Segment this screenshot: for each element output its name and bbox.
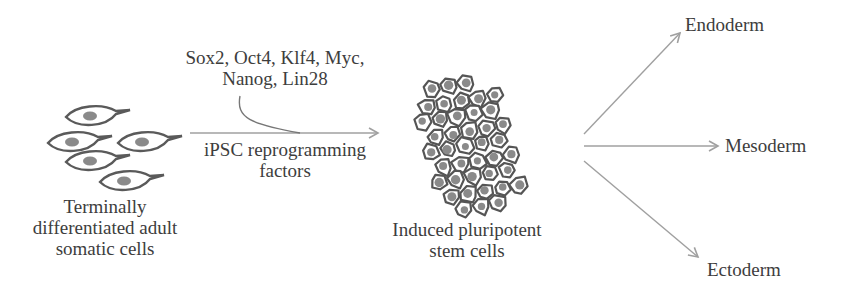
label-line: Induced pluripotent [372, 219, 562, 240]
stem-cell [489, 195, 506, 211]
nucleus [465, 127, 474, 136]
nucleus [451, 175, 460, 184]
nucleus [449, 131, 457, 139]
stem-cell [499, 163, 515, 177]
nucleus [440, 100, 448, 108]
nucleus [478, 203, 485, 210]
endoderm-arrow [584, 33, 680, 134]
nucleus [427, 148, 435, 156]
stem-cell [424, 81, 440, 97]
factors-connector [239, 96, 300, 133]
stem-cell [491, 133, 508, 148]
nucleus [424, 103, 432, 111]
nucleus [480, 186, 488, 194]
somatic-cells-icon [48, 106, 182, 190]
nucleus [435, 178, 444, 187]
stem-cell [475, 137, 489, 151]
stem-cell [509, 177, 527, 194]
stem-cell-cluster-icon [414, 75, 527, 217]
nucleus [436, 114, 445, 123]
nucleus [442, 145, 451, 154]
stem-cell [414, 114, 431, 131]
nucleus [495, 136, 503, 144]
stem-cell [436, 96, 451, 112]
nucleus [474, 157, 481, 164]
nucleus [439, 162, 447, 170]
nucleus [515, 180, 524, 189]
label-line: factors [180, 160, 390, 181]
label-line: Terminally [2, 196, 208, 217]
label-line: stem cells [372, 240, 562, 261]
nucleus [474, 94, 483, 103]
stem-cell [440, 141, 455, 156]
stem-cell [454, 93, 469, 109]
stem-cell [428, 130, 443, 145]
stem-cell [473, 199, 489, 215]
stem-cell [457, 75, 474, 91]
nucleus [431, 133, 439, 141]
stem-cell [487, 88, 503, 102]
stem-cell [460, 186, 475, 202]
nucleus [478, 138, 486, 146]
nucleus [457, 96, 466, 105]
stem-cell [445, 127, 461, 141]
stem-cell [464, 168, 481, 185]
stem-cell [440, 79, 456, 94]
label-line: iPSC reprogramming [180, 139, 390, 160]
nucleus [458, 160, 466, 168]
stem-cell [456, 201, 472, 217]
stem-cell [456, 137, 474, 154]
factors-label: Sox2, Oct4, Klf4, Myc, Nanog, Lin28 [165, 47, 385, 89]
somatic-cells-label: Terminally differentiated adult somatic … [2, 196, 208, 259]
nucleus [489, 153, 498, 162]
label-line: Sox2, Oct4, Klf4, Myc, [165, 47, 385, 68]
nucleus [494, 199, 502, 207]
nucleus [419, 117, 426, 124]
endoderm-label: Endoderm [685, 14, 764, 35]
stem-cell [447, 109, 465, 126]
nucleus [428, 84, 437, 93]
nucleus [463, 189, 472, 198]
nucleus [504, 166, 512, 174]
nucleus [486, 170, 493, 177]
nucleus [499, 120, 507, 128]
stem-cell [423, 144, 440, 160]
somatic-cell [48, 132, 112, 151]
label-line: somatic cells [2, 238, 208, 259]
label-line: Nanog, Lin28 [165, 68, 385, 89]
ipsc-label: Induced pluripotent stem cells [372, 219, 562, 261]
somatic-cell [100, 171, 164, 190]
ectoderm-label: Ectoderm [707, 259, 781, 280]
nucleus [482, 124, 490, 132]
nucleus [467, 172, 476, 181]
stem-cell [432, 175, 447, 189]
stem-cell [469, 153, 487, 169]
stem-cell [485, 151, 503, 166]
stem-cell [418, 100, 435, 114]
stem-cell [435, 159, 450, 176]
nucleus [462, 143, 469, 150]
nucleus [461, 206, 468, 213]
mesoderm-label: Mesoderm [725, 135, 806, 156]
somatic-cell [118, 132, 182, 151]
nucleus [499, 183, 507, 191]
somatic-cell [66, 106, 130, 125]
stem-cell [478, 121, 495, 137]
stem-cell [433, 112, 447, 127]
nucleus [507, 150, 515, 158]
stem-cell [444, 190, 459, 205]
nucleus [444, 81, 453, 90]
nucleus [453, 111, 462, 120]
reprogramming-label: iPSC reprogramming factors [180, 139, 390, 181]
nucleus [486, 105, 495, 114]
nucleus [447, 192, 456, 201]
stem-cell [483, 166, 498, 180]
stem-cell [503, 147, 519, 164]
stem-cell [477, 185, 493, 199]
nucleus [462, 78, 471, 87]
ectoderm-arrow [584, 161, 698, 257]
stem-cell [496, 118, 511, 134]
somatic-cell [66, 151, 130, 170]
nucleus [491, 91, 498, 98]
stem-cell [461, 122, 477, 139]
